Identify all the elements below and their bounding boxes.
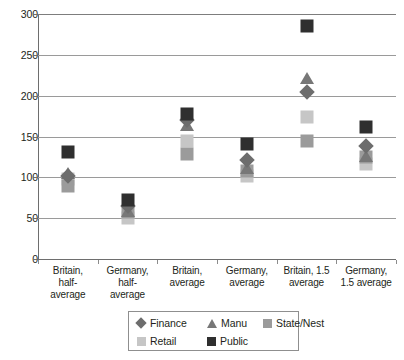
legend-row-bottom: RetailPublic	[129, 332, 298, 350]
data-point-retail-2	[181, 134, 194, 147]
y-axis-tick-labels: 300250200150100500	[0, 0, 38, 360]
x-label-line: average	[157, 277, 217, 289]
data-point-public-3	[240, 137, 253, 150]
data-point-public-0	[61, 146, 74, 159]
x-label-line: average	[217, 277, 277, 289]
data-point-retail-4	[300, 110, 313, 123]
x-label-line: average	[38, 289, 98, 301]
scatter-chart: 300250200150100500 Britain,half-averageG…	[0, 0, 404, 360]
gridline-150	[38, 137, 396, 138]
legend-label: Manu	[221, 318, 247, 329]
x-label-line: Britain,	[38, 265, 98, 277]
x-tick-mark-4	[277, 260, 278, 264]
data-point-public-5	[360, 120, 373, 133]
x-axis-label-3: Germany,average	[217, 265, 277, 289]
legend-label: Public	[220, 336, 248, 347]
x-label-line: half-	[98, 277, 158, 289]
x-label-line: 1.5 average	[336, 277, 396, 289]
x-label-line: half-	[38, 277, 98, 289]
x-axis-label-1: Germany,half-average	[98, 265, 158, 302]
legend-swatch-square-icon	[207, 337, 216, 346]
data-point-public-2	[181, 107, 194, 120]
legend-item-manu[interactable]: Manu	[207, 318, 247, 329]
gridline-50	[38, 218, 396, 219]
x-axis-label-5: Germany,1.5 average	[336, 265, 396, 289]
legend-item-public[interactable]: Public	[207, 336, 248, 347]
x-tick-mark-5	[336, 260, 337, 264]
x-axis-label-0: Britain,half-average	[38, 265, 98, 302]
x-label-line: Germany,	[98, 265, 158, 277]
x-tick-mark-3	[217, 260, 218, 264]
gridline-200	[38, 96, 396, 97]
legend-swatch-square-icon	[263, 319, 272, 328]
legend-swatch-diamond-icon	[135, 317, 146, 328]
x-tick-mark-0	[38, 260, 39, 264]
data-point-public-1	[121, 194, 134, 207]
legend-row-top: FinanceManuState/Nest	[129, 314, 298, 332]
x-label-line: Germany,	[217, 265, 277, 277]
legend-swatch-square-icon	[137, 337, 146, 346]
legend-item-finance[interactable]: Finance	[137, 318, 187, 329]
gridline-250	[38, 55, 396, 56]
chart-legend: FinanceManuState/Nest RetailPublic	[128, 311, 299, 351]
x-label-line: Britain, 1.5	[277, 265, 337, 277]
data-point-finance-4	[299, 84, 315, 100]
legend-swatch-triangle-icon	[207, 319, 217, 328]
data-point-state-nest-2	[181, 148, 194, 161]
x-tick-mark-2	[157, 260, 158, 264]
x-axis-label-2: Britain,average	[157, 265, 217, 289]
plot-area	[38, 14, 396, 259]
legend-label: Retail	[150, 336, 176, 347]
gridline-300	[38, 14, 396, 15]
data-point-state-nest-4	[300, 135, 313, 148]
x-label-line: Germany,	[336, 265, 396, 277]
legend-item-state-nest[interactable]: State/Nest	[263, 318, 324, 329]
gridline-100	[38, 177, 396, 178]
x-label-line: average	[98, 289, 158, 301]
legend-label: State/Nest	[276, 318, 324, 329]
x-axis-label-4: Britain, 1.5average	[277, 265, 337, 289]
data-point-manu-4	[300, 72, 314, 84]
x-tick-mark-6	[396, 260, 397, 264]
legend-item-retail[interactable]: Retail	[137, 336, 176, 347]
data-point-public-4	[300, 20, 313, 33]
x-label-line: Britain,	[157, 265, 217, 277]
x-label-line: average	[277, 277, 337, 289]
legend-label: Finance	[150, 318, 187, 329]
x-tick-mark-1	[98, 260, 99, 264]
